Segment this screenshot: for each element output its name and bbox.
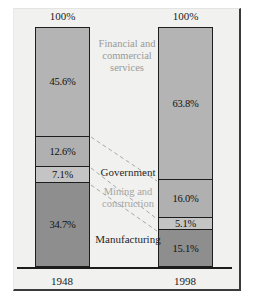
segment-value-label: 15.1% bbox=[172, 243, 198, 254]
segment-value-label: 5.1% bbox=[175, 218, 196, 229]
segment-financial-1998[interactable]: 63.8% bbox=[159, 28, 212, 180]
segment-value-label: 12.6% bbox=[49, 146, 75, 157]
plot-area: 100% 100% 45.6% 12.6% 7.1% 34.7% 63.8% 1… bbox=[0, 0, 254, 301]
segment-manufacturing-1948[interactable]: 34.7% bbox=[36, 183, 89, 266]
segment-value-label: 16.0% bbox=[172, 193, 198, 204]
stacked-bar-1998[interactable]: 63.8% 16.0% 5.1% 15.1% bbox=[158, 27, 213, 267]
bar-total-label-1998: 100% bbox=[158, 10, 213, 22]
segment-financial-1948[interactable]: 45.6% bbox=[36, 28, 89, 137]
segment-mining-1998[interactable]: 5.1% bbox=[159, 218, 212, 230]
segment-government-1948[interactable]: 12.6% bbox=[36, 137, 89, 167]
bar-total-label-1948: 100% bbox=[35, 10, 90, 22]
segment-value-label: 7.1% bbox=[52, 169, 73, 180]
stacked-bar-chart-figure: 100% 100% 45.6% 12.6% 7.1% 34.7% 63.8% 1… bbox=[0, 0, 254, 301]
category-label-financial-services: Financial and commercial services bbox=[92, 38, 162, 74]
x-axis-tick-1948: 1948 bbox=[27, 275, 97, 287]
stacked-bar-1948[interactable]: 45.6% 12.6% 7.1% 34.7% bbox=[35, 27, 90, 267]
category-label-mining-construction: Mining and construction bbox=[88, 186, 168, 210]
category-label-manufacturing: Manufacturing bbox=[84, 233, 172, 246]
x-axis-tick-1998: 1998 bbox=[150, 275, 220, 287]
segment-value-label: 45.6% bbox=[49, 76, 75, 87]
segment-mining-1948[interactable]: 7.1% bbox=[36, 167, 89, 184]
x-axis-baseline bbox=[17, 267, 232, 269]
segment-value-label: 63.8% bbox=[172, 98, 198, 109]
category-label-government: Government bbox=[90, 166, 166, 179]
segment-value-label: 34.7% bbox=[49, 219, 75, 230]
